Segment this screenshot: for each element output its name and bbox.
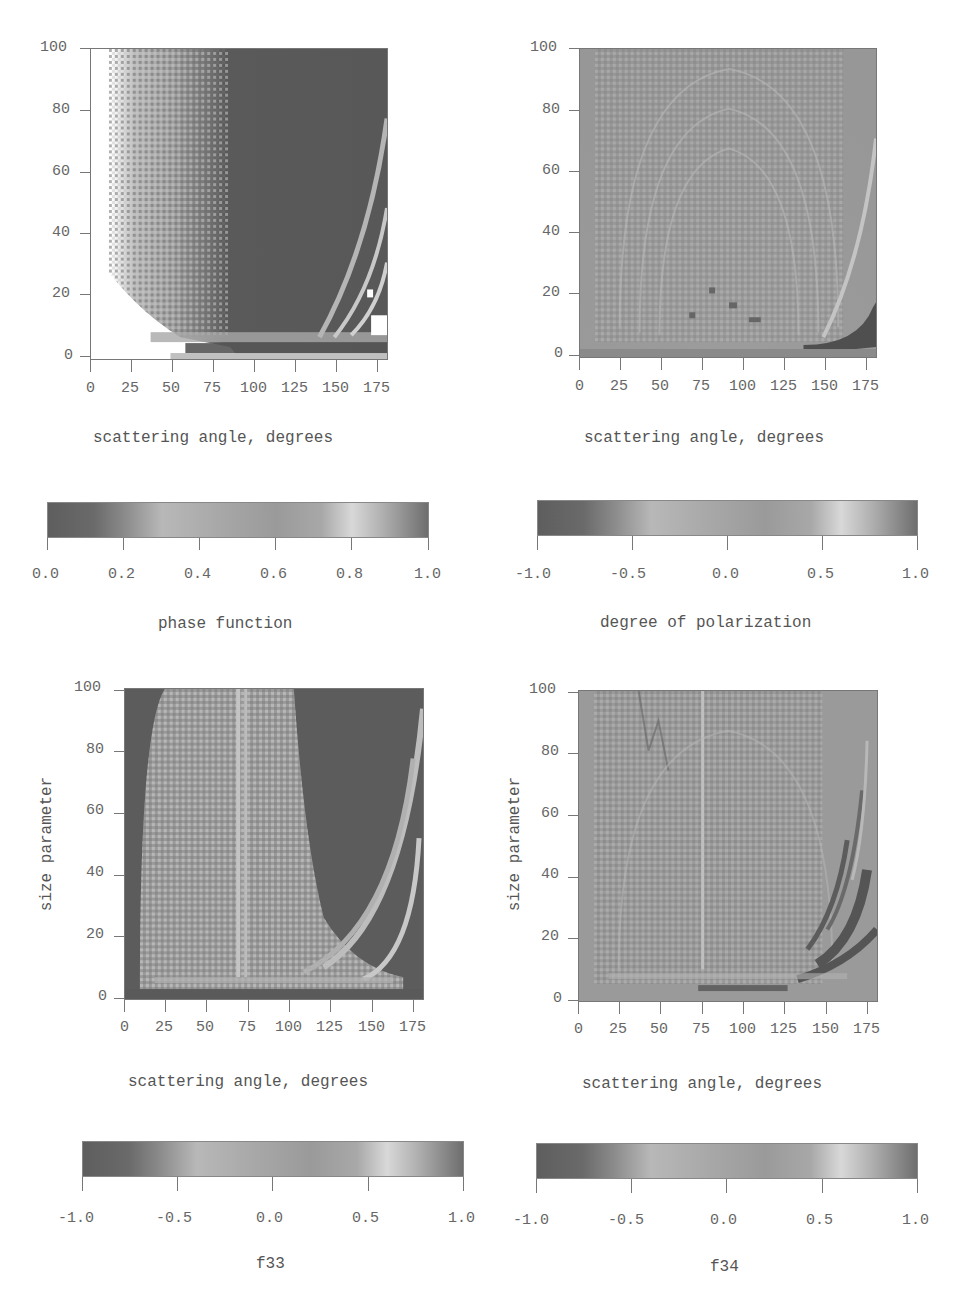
xtick-mark	[254, 360, 255, 372]
cbar-tick-label: -1.0	[58, 1210, 94, 1227]
xtick-mark	[172, 360, 173, 372]
xtick-label: 125	[770, 1021, 797, 1038]
ytick-mark	[80, 172, 90, 173]
cbar-tick-label: -0.5	[608, 1212, 644, 1229]
xtick-label: 0	[86, 380, 95, 397]
cbar-tick-label: -0.5	[156, 1210, 192, 1227]
xtick-label: 100	[729, 1021, 756, 1038]
cbar-tick-label: 1.0	[414, 566, 441, 583]
heatmap-f34	[578, 690, 878, 1002]
xtick-mark	[661, 358, 662, 370]
xtick-mark	[295, 360, 296, 372]
ytick-mark	[568, 692, 578, 693]
cbar-tick	[47, 538, 48, 550]
xtick-label: 175	[363, 380, 390, 397]
cbar-tick-label: 1.0	[902, 1212, 929, 1229]
xtick-mark	[289, 1000, 290, 1012]
ytick-label: 40	[541, 866, 559, 883]
xaxis-title: scattering angle, degrees	[93, 429, 333, 447]
cbar-tick-label: 0.0	[256, 1210, 283, 1227]
xtick-mark	[660, 1002, 661, 1014]
xaxis-title: scattering angle, degrees	[582, 1075, 822, 1093]
xtick-mark	[372, 1000, 373, 1012]
ytick-label: 20	[542, 284, 560, 301]
xtick-label: 25	[155, 1019, 173, 1036]
ytick-label: 0	[98, 988, 107, 1005]
xtick-label: 150	[812, 1021, 839, 1038]
cbar-tick-label: 1.0	[902, 566, 929, 583]
yaxis-title: size parameter	[506, 777, 524, 911]
ytick-mark	[80, 110, 90, 111]
xtick-mark	[206, 1000, 207, 1012]
xtick-mark	[330, 1000, 331, 1012]
cbar-tick-label: 0.5	[807, 566, 834, 583]
cbar-tick-label: 0.4	[184, 566, 211, 583]
ytick-label: 20	[86, 926, 104, 943]
ytick-label: 100	[74, 679, 101, 696]
xtick-label: 0	[120, 1019, 129, 1036]
xtick-label: 175	[399, 1019, 426, 1036]
ytick-label: 0	[554, 345, 563, 362]
xtick-mark	[702, 1002, 703, 1014]
ytick-mark	[569, 48, 579, 49]
cbar-tick-label: 0.0	[712, 566, 739, 583]
ytick-label: 80	[541, 743, 559, 760]
colorbar-f34	[536, 1143, 918, 1179]
xtick-mark	[743, 1002, 744, 1014]
cbar-tick-label: 0.6	[260, 566, 287, 583]
ytick-mark	[569, 293, 579, 294]
xtick-mark	[743, 358, 744, 370]
ytick-label: 100	[530, 39, 557, 56]
heatmap-degree-of-polarization	[579, 48, 877, 358]
heatmap-phase-function	[90, 48, 388, 360]
ytick-mark	[569, 355, 579, 356]
xtick-mark	[248, 1000, 249, 1012]
ytick-label: 60	[541, 805, 559, 822]
xtick-label: 75	[692, 378, 710, 395]
xaxis-title: scattering angle, degrees	[584, 429, 824, 447]
cbar-tick	[463, 1177, 464, 1191]
xtick-mark	[866, 358, 867, 370]
xtick-label: 100	[240, 380, 267, 397]
xtick-label: 150	[322, 380, 349, 397]
xtick-label: 125	[770, 378, 797, 395]
ytick-mark	[569, 110, 579, 111]
ytick-mark	[114, 690, 124, 691]
cbar-tick	[917, 1179, 918, 1193]
xtick-label: 100	[729, 378, 756, 395]
colorbar-title: f34	[710, 1258, 739, 1276]
xtick-label: 50	[651, 378, 669, 395]
cbar-tick-label: 0.0	[32, 566, 59, 583]
cbar-tick	[631, 1179, 632, 1193]
ytick-label: 20	[541, 928, 559, 945]
colorbar-title: phase function	[158, 615, 292, 633]
cbar-tick	[632, 536, 633, 550]
cbar-tick	[351, 538, 352, 550]
cbar-tick-label: 0.5	[806, 1212, 833, 1229]
ytick-label: 100	[40, 39, 67, 56]
cbar-tick	[199, 538, 200, 550]
xtick-label: 125	[316, 1019, 343, 1036]
colorbar-title: f33	[256, 1255, 285, 1273]
ytick-label: 60	[52, 163, 70, 180]
xtick-mark	[702, 358, 703, 370]
colorbar-title: degree of polarization	[600, 614, 811, 632]
xtick-mark	[619, 1002, 620, 1014]
ytick-label: 20	[52, 285, 70, 302]
cbar-tick-label: 1.0	[448, 1210, 475, 1227]
cbar-tick-label: -1.0	[513, 1212, 549, 1229]
cbar-tick-label: 0.5	[352, 1210, 379, 1227]
cbar-tick	[917, 536, 918, 550]
xtick-mark	[825, 358, 826, 370]
xtick-mark	[165, 1000, 166, 1012]
ytick-mark	[114, 998, 124, 999]
cbar-tick	[822, 536, 823, 550]
xtick-label: 75	[238, 1019, 256, 1036]
xtick-mark	[336, 360, 337, 372]
cbar-tick	[275, 538, 276, 550]
ytick-mark	[114, 751, 124, 752]
xtick-mark	[413, 1000, 414, 1012]
ytick-label: 100	[529, 681, 556, 698]
xtick-label: 100	[275, 1019, 302, 1036]
cbar-tick-label: -1.0	[515, 566, 551, 583]
